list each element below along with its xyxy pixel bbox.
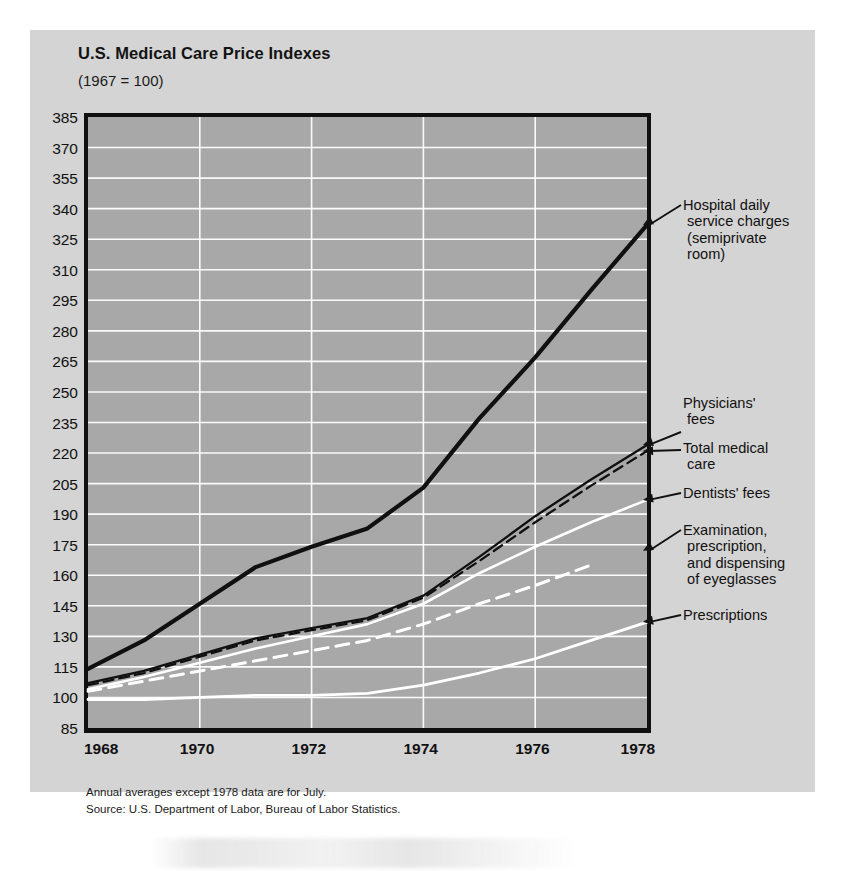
- x-tick-1976: 1976: [515, 740, 549, 758]
- y-tick-370: 370: [52, 141, 78, 157]
- annotation-physicians: Physicians' fees: [683, 395, 756, 428]
- chart-footnotes: Annual averages except 1978 data are for…: [86, 784, 401, 819]
- y-tick-250: 250: [52, 385, 78, 401]
- y-tick-265: 265: [52, 354, 78, 370]
- x-tick-1978: 1978: [621, 740, 655, 758]
- chart-lines-layer: [84, 113, 651, 733]
- annotation-dentists: Dentists' fees: [683, 485, 770, 501]
- y-tick-310: 310: [52, 263, 78, 279]
- y-tick-295: 295: [52, 293, 78, 309]
- annotation-hospital: Hospital daily service charges (semipriv…: [683, 197, 789, 263]
- annotation-prescriptions: Prescriptions: [683, 607, 767, 623]
- y-tick-130: 130: [52, 629, 78, 645]
- x-tick-1968: 1968: [84, 740, 118, 758]
- y-tick-100: 100: [52, 690, 78, 706]
- y-tick-340: 340: [52, 202, 78, 218]
- footnote-source: Source: U.S. Department of Labor, Bureau…: [86, 801, 401, 818]
- y-tick-385: 385: [52, 110, 78, 126]
- series-line-5: [88, 622, 647, 699]
- annotation-total-medical-care: Total medical care: [683, 440, 768, 473]
- y-tick-235: 235: [52, 416, 78, 432]
- y-tick-85: 85: [61, 721, 78, 737]
- page-scan-artifact: [150, 838, 580, 868]
- y-tick-205: 205: [52, 477, 78, 493]
- y-tick-160: 160: [52, 568, 78, 584]
- footnote-annual-averages: Annual averages except 1978 data are for…: [86, 784, 401, 801]
- series-line-0: [88, 225, 647, 669]
- series-line-1: [88, 445, 647, 683]
- y-tick-325: 325: [52, 232, 78, 248]
- x-tick-1972: 1972: [292, 740, 326, 758]
- page-title: U.S. Medical Care Price Indexes: [78, 44, 331, 63]
- x-tick-1974: 1974: [403, 740, 437, 758]
- x-tick-1970: 1970: [180, 740, 214, 758]
- y-tick-355: 355: [52, 171, 78, 187]
- y-tick-115: 115: [53, 660, 78, 676]
- annotation-eyeglasses: Examination, prescription, and dispensin…: [683, 522, 785, 588]
- page-root: U.S. Medical Care Price Indexes (1967 = …: [0, 0, 845, 871]
- x-axis-tick-labels: 196819701972197419761978: [84, 740, 651, 762]
- y-tick-175: 175: [52, 538, 78, 554]
- chart-subtitle: (1967 = 100): [78, 72, 163, 89]
- y-tick-190: 190: [52, 507, 78, 523]
- line-chart-svg: [84, 113, 651, 733]
- y-tick-145: 145: [52, 599, 78, 615]
- y-tick-280: 280: [52, 324, 78, 340]
- y-axis-tick-labels: 3853703553403253102952802652502352202051…: [26, 113, 78, 733]
- y-tick-220: 220: [52, 446, 78, 462]
